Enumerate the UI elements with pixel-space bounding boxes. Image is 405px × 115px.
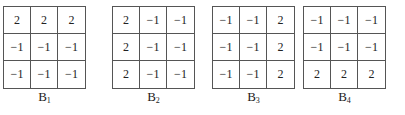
kernel-matrix-b4: −1−1−1−1−1−1222 xyxy=(303,6,386,89)
matrix-cell: −1 xyxy=(58,34,85,61)
matrix-label-name: B xyxy=(338,89,347,104)
matrix-label-subscript: 1 xyxy=(47,96,51,105)
matrix-cell: −1 xyxy=(31,61,58,88)
matrix-cell: 2 xyxy=(113,61,140,88)
matrix-cell: 2 xyxy=(267,61,294,88)
matrix-cell: −1 xyxy=(140,61,167,88)
matrix-cell: 2 xyxy=(113,7,140,34)
matrix-cell: −1 xyxy=(304,7,331,34)
matrix-cell: −1 xyxy=(167,34,194,61)
matrix-label: B3 xyxy=(212,89,295,105)
matrix-label: B4 xyxy=(303,89,386,105)
matrix-grid: 222−1−1−1−1−1−1 xyxy=(3,6,86,89)
matrix-cell: −1 xyxy=(213,61,240,88)
matrix-cell: −1 xyxy=(213,7,240,34)
matrix-label: B1 xyxy=(3,89,86,105)
matrix-cell: 2 xyxy=(31,7,58,34)
matrix-cell: 2 xyxy=(304,61,331,88)
matrix-cell: −1 xyxy=(331,34,358,61)
matrix-label: B2 xyxy=(112,89,195,105)
matrix-label-subscript: 2 xyxy=(156,96,160,105)
matrix-cell: −1 xyxy=(304,34,331,61)
matrix-grid: −1−12−1−12−1−12 xyxy=(212,6,295,89)
matrix-cell: −1 xyxy=(331,7,358,34)
matrix-cell: −1 xyxy=(358,34,385,61)
matrix-label-name: B xyxy=(247,89,256,104)
matrix-label-subscript: 3 xyxy=(256,96,260,105)
matrix-label-name: B xyxy=(147,89,156,104)
matrix-label-subscript: 4 xyxy=(347,96,351,105)
matrix-cell: −1 xyxy=(358,7,385,34)
matrix-cell: 2 xyxy=(358,61,385,88)
kernel-matrix-b2: 2−1−12−1−12−1−1 xyxy=(112,6,195,89)
matrix-cell: 2 xyxy=(267,7,294,34)
matrix-cell: 2 xyxy=(267,34,294,61)
matrix-cell: −1 xyxy=(240,7,267,34)
kernel-matrix-b1: 222−1−1−1−1−1−1 xyxy=(3,6,86,89)
matrix-cell: 2 xyxy=(113,34,140,61)
matrix-cell: 2 xyxy=(331,61,358,88)
matrix-cell: −1 xyxy=(140,34,167,61)
matrix-grid: −1−1−1−1−1−1222 xyxy=(303,6,386,89)
matrix-cell: 2 xyxy=(4,7,31,34)
matrix-cell: −1 xyxy=(4,34,31,61)
matrix-cell: −1 xyxy=(140,7,167,34)
matrix-grid: 2−1−12−1−12−1−1 xyxy=(112,6,195,89)
matrix-cell: −1 xyxy=(167,7,194,34)
matrix-cell: −1 xyxy=(240,61,267,88)
kernel-matrix-b3: −1−12−1−12−1−12 xyxy=(212,6,295,89)
matrix-cell: −1 xyxy=(240,34,267,61)
matrix-label-name: B xyxy=(38,89,47,104)
matrix-cell: −1 xyxy=(58,61,85,88)
matrix-cell: 2 xyxy=(58,7,85,34)
matrix-cell: −1 xyxy=(4,61,31,88)
matrix-cell: −1 xyxy=(167,61,194,88)
matrix-cell: −1 xyxy=(31,34,58,61)
matrix-cell: −1 xyxy=(213,34,240,61)
